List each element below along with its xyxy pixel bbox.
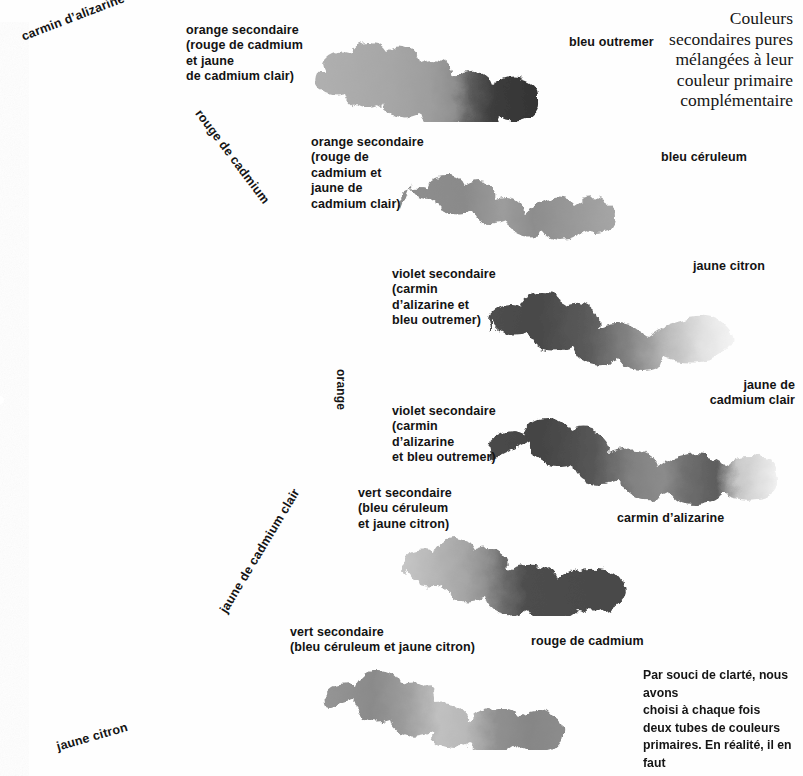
wheel-label-jaune-citron: jaune citron [55, 720, 129, 754]
caption-vert-secondaire-1: vert secondaire (bleu céruleum et jaune … [358, 486, 452, 532]
wheel-label-rouge-de-cadmium: rouge de cadmium [192, 107, 272, 207]
swatch-blob-4 [478, 408, 796, 506]
caption-orange-secondaire-2: orange secondaire (rouge de cadmium et j… [311, 135, 424, 212]
caption-violet-secondaire-1: violet secondaire (carmin d’alizarine et… [392, 267, 496, 329]
wheel-label-orange: orange [334, 369, 348, 410]
swatch-blob-2 [392, 162, 640, 242]
label-bleu-outremer: bleu outremer [569, 35, 654, 50]
caption-violet-secondaire-2: violet secondaire (carmin d’alizarine et… [392, 404, 496, 466]
wheel-label-jaune-de-cadmium-clair: jaune de cadmium clair [217, 486, 302, 615]
swatch-blob-5 [392, 524, 676, 616]
label-jaune-citron: jaune citron [693, 259, 765, 274]
label-carmin-dalizarine: carmin d’alizarine [617, 511, 724, 526]
caption-vert-secondaire-2: vert secondaire (bleu céruleum et jaune … [290, 625, 475, 656]
wheel-label-carmin-dalizarine: carmin d’alizarine [19, 0, 126, 44]
label-jaune-de-cadmium-clair: jaune de cadmium clair [640, 378, 795, 409]
label-rouge-de-cadmium: rouge de cadmium [531, 634, 644, 649]
swatch-blob-6 [316, 660, 596, 750]
swatch-blob-3 [476, 278, 766, 374]
page-canvas: carmin d’alizarine rouge de cadmium oran… [0, 0, 803, 776]
label-bleu-ceruleum: bleu céruleum [661, 150, 747, 165]
caption-orange-secondaire-1: orange secondaire (rouge de cadmium et j… [186, 23, 303, 85]
swatch-blob-1 [312, 32, 554, 122]
footnote: Par souci de clarté, nous avons choisi à… [643, 666, 792, 776]
color-wheel [0, 22, 348, 776]
page-title: Couleurs secondaires pures mélangées à l… [593, 8, 793, 111]
